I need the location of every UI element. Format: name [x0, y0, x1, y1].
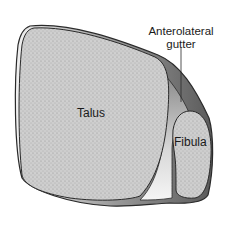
- anterolateral-gutter-label: Anterolateral gutter: [148, 25, 214, 51]
- fibula-bone: [173, 111, 211, 198]
- gutter-label-line1: Anterolateral: [148, 25, 214, 38]
- talus-label: Talus: [77, 107, 105, 120]
- fibula-label: Fibula: [174, 136, 207, 149]
- gutter-label-line2: gutter: [148, 38, 214, 51]
